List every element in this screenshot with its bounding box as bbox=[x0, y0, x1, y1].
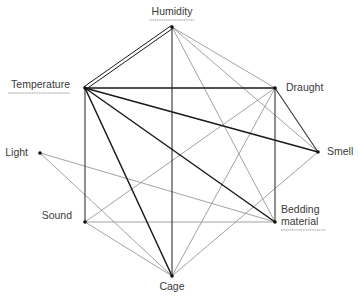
node-label-sound: Sound bbox=[42, 209, 73, 221]
node-dot-draught bbox=[273, 86, 277, 90]
node-smell: Smell bbox=[316, 145, 353, 157]
node-dot-light bbox=[38, 151, 42, 155]
node-bedding: Beddingmaterial bbox=[273, 203, 326, 230]
node-draught: Draught bbox=[273, 81, 323, 93]
node-sound: Sound bbox=[42, 209, 87, 224]
node-dot-humidity bbox=[170, 25, 174, 29]
node-label-bedding: Beddingmaterial bbox=[281, 203, 320, 227]
node-label-temperature: Temperature bbox=[11, 78, 70, 90]
nodes-layer: HumidityTemperatureDraughtLightSmellSoun… bbox=[5, 5, 353, 292]
node-label-humidity: Humidity bbox=[152, 5, 194, 17]
edge-temperature-cage bbox=[85, 88, 172, 276]
node-light: Light bbox=[5, 146, 42, 158]
node-dot-temperature bbox=[83, 86, 87, 90]
edge-humidity-temperature bbox=[84, 26, 173, 90]
node-label-light: Light bbox=[5, 146, 28, 158]
node-temperature: Temperature bbox=[8, 78, 86, 93]
edge-temperature-smell bbox=[85, 88, 318, 152]
node-dot-smell bbox=[316, 150, 320, 154]
factor-network-diagram: HumidityTemperatureDraughtLightSmellSoun… bbox=[0, 0, 358, 297]
edge-humidity-temperature-b bbox=[86, 28, 173, 89]
node-dot-cage bbox=[170, 274, 174, 278]
node-label-smell: Smell bbox=[327, 145, 353, 157]
edge-humidity-draught bbox=[172, 27, 275, 88]
node-label-draught: Draught bbox=[286, 81, 323, 93]
edges-layer bbox=[40, 26, 318, 276]
node-dot-sound bbox=[83, 220, 87, 224]
node-humidity: Humidity bbox=[150, 5, 195, 29]
edge-humidity-temperature-a bbox=[84, 26, 171, 87]
node-label-cage: Cage bbox=[159, 280, 184, 292]
edge-light-bedding bbox=[40, 153, 275, 222]
node-cage: Cage bbox=[159, 274, 184, 292]
node-dot-bedding bbox=[273, 220, 277, 224]
